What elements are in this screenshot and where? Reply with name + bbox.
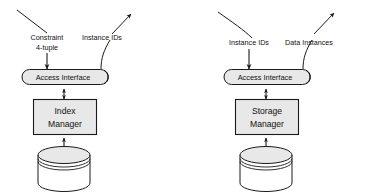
index-panel: Constraint 4-tuple Instance IDs Access I…: [17, 10, 131, 192]
instance-ids-out-left-arrow: [112, 14, 131, 34]
instance-ids-out-left-line: [101, 40, 110, 69]
diagram-svg: Constraint 4-tuple Instance IDs Access I…: [0, 0, 372, 194]
instance-ids-in-right-label: Instance IDs: [229, 38, 269, 47]
index-manager-label-line1: Index: [54, 106, 76, 116]
access-interface-left-label: Access Interface: [36, 73, 91, 82]
storage-manager-label-line1: Storage: [252, 106, 282, 116]
data-instances-out-right-arrow: [314, 13, 334, 34]
storage-store-cylinder[interactable]: [240, 147, 292, 192]
storage-panel: Instance IDs Data Instances Access Inter…: [218, 12, 334, 192]
index-store-cylinder[interactable]: [38, 147, 90, 192]
constraint-4-tuple-source-line: [17, 10, 47, 33]
instance-ids-in-right-source-line: [218, 12, 252, 38]
access-interface-right-label: Access Interface: [238, 73, 293, 82]
constraint-4-tuple-label-line2: 4-tuple: [36, 43, 58, 52]
diagram-canvas: Constraint 4-tuple Instance IDs Access I…: [0, 0, 372, 194]
index-manager-label-line2: Manager: [48, 119, 82, 129]
constraint-4-tuple-label-line1: Constraint: [31, 33, 64, 42]
instance-ids-out-left-label: Instance IDs: [82, 33, 122, 42]
storage-manager-label-line2: Manager: [250, 119, 284, 129]
data-instances-out-right-label: Data Instances: [285, 38, 333, 47]
